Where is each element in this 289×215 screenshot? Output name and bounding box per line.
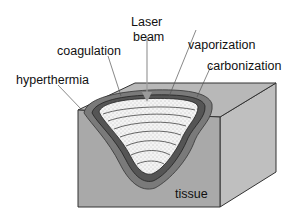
tissue-label: tissue <box>175 187 208 201</box>
laser-tissue-diagram: Laser beam coagulation vaporization carb… <box>0 0 289 215</box>
vaporization-label: vaporization <box>188 38 255 52</box>
laser-beam-label-line1: Laser <box>131 15 162 29</box>
hyperthermia-label: hyperthermia <box>16 73 89 87</box>
carbonization-label: carbonization <box>207 59 281 73</box>
laser-beam-label-line2: beam <box>133 30 164 44</box>
laser-beam-arrow <box>142 36 152 102</box>
coagulation-label: coagulation <box>57 44 121 58</box>
